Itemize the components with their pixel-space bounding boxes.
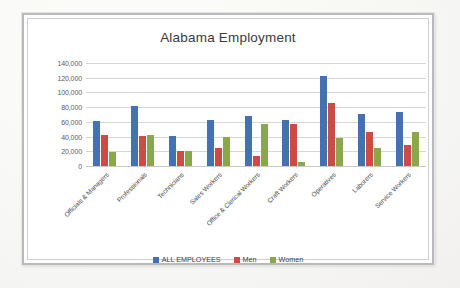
bar: [290, 124, 297, 166]
x-axis-category-labels: Officials & ManagersProfessionalsTechnic…: [86, 168, 426, 246]
bar-group: [124, 63, 162, 166]
bar: [404, 145, 411, 166]
x-axis-label-slot: Laborers: [350, 168, 388, 246]
y-axis-tick-label: 100,000: [57, 89, 82, 96]
bar: [261, 124, 268, 166]
x-axis-tick-label: Operatives: [309, 171, 336, 198]
bar: [374, 148, 381, 166]
bar: [412, 132, 419, 166]
x-axis-label-slot: Craft Workers: [275, 168, 313, 246]
y-axis-tick-label: 40,000: [61, 133, 82, 140]
bar-group: [388, 63, 426, 166]
bar: [282, 120, 289, 166]
y-axis-tick-label: 60,000: [61, 118, 82, 125]
y-axis-tick-label: 120,000: [57, 74, 82, 81]
bar: [109, 152, 116, 166]
x-axis-label-slot: Operatives: [313, 168, 351, 246]
bar-group: [275, 63, 313, 166]
legend-swatch-icon: [234, 257, 240, 263]
bar-group: [86, 63, 124, 166]
bar: [358, 114, 365, 166]
bar: [328, 103, 335, 166]
bar: [139, 136, 146, 166]
bar-series-layer: [86, 63, 426, 166]
bar: [336, 138, 343, 166]
bar: [223, 137, 230, 166]
y-axis-tick-labels: 140,000120,000100,00080,00060,00040,0002…: [36, 63, 82, 166]
bar-group: [350, 63, 388, 166]
legend-label: ALL EMPLOYEES: [162, 255, 221, 264]
x-axis-label-slot: Service Workers: [388, 168, 426, 246]
bar-group: [313, 63, 351, 166]
bar-group: [199, 63, 237, 166]
bar: [185, 151, 192, 166]
bar: [320, 76, 327, 166]
x-axis-tick-label: Officials & Managers: [63, 171, 110, 218]
bar: [131, 106, 138, 166]
bar: [169, 136, 176, 166]
bar: [215, 148, 222, 166]
bar: [177, 151, 184, 166]
y-axis-tick-label: 140,000: [57, 60, 82, 67]
bar: [396, 112, 403, 166]
bar: [298, 162, 305, 166]
y-axis-tick-label: 20,000: [61, 148, 82, 155]
x-axis-label-slot: Technicians: [162, 168, 200, 246]
bar: [101, 135, 108, 166]
legend-swatch-icon: [270, 257, 276, 263]
legend-item[interactable]: Men: [234, 255, 257, 264]
bar: [245, 116, 252, 166]
y-axis-tick-label: 80,000: [61, 104, 82, 111]
x-axis-label-slot: Officials & Managers: [86, 168, 124, 246]
y-axis-tick-label: 0: [78, 163, 82, 170]
legend-item[interactable]: ALL EMPLOYEES: [153, 255, 221, 264]
legend-label: Women: [279, 255, 304, 264]
x-axis-tick-label: Technicians: [156, 171, 185, 200]
chart-title: Alabama Employment: [28, 30, 428, 45]
bar: [147, 135, 154, 166]
legend-label: Men: [243, 255, 257, 264]
bar: [93, 121, 100, 166]
x-axis-tick-label: Laborers: [351, 171, 374, 194]
bar-group: [237, 63, 275, 166]
gridline: [86, 166, 426, 167]
chart-frame-inner: Alabama Employment 140,000120,000100,000…: [27, 18, 429, 260]
bar: [207, 120, 214, 166]
x-axis-label-slot: Office & Clerical Workers: [237, 168, 275, 246]
bar: [366, 132, 373, 166]
scanned-page-background: Alabama Employment 140,000120,000100,000…: [0, 0, 460, 288]
x-axis-label-slot: Professionals: [124, 168, 162, 246]
chart-frame: Alabama Employment 140,000120,000100,000…: [22, 13, 434, 265]
chart-legend: ALL EMPLOYEESMenWomen: [28, 255, 428, 264]
legend-swatch-icon: [153, 257, 159, 263]
legend-item[interactable]: Women: [270, 255, 304, 264]
bar-group: [162, 63, 200, 166]
bar: [253, 156, 260, 166]
